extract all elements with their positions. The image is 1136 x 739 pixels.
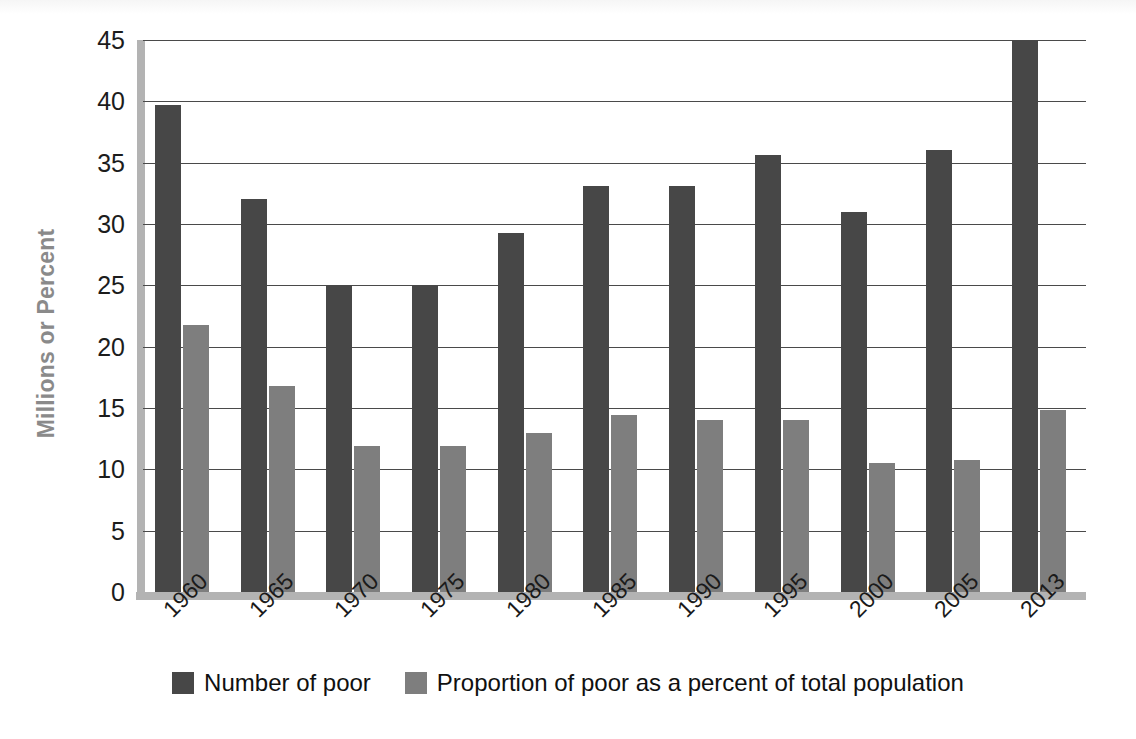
- bar: [583, 186, 609, 592]
- y-tick-label: 35: [97, 148, 125, 177]
- bar: [326, 285, 352, 592]
- bar: [241, 199, 267, 592]
- legend-swatch-icon: [405, 672, 427, 694]
- bar-group: [314, 40, 400, 592]
- y-tick-label: 10: [97, 455, 125, 484]
- y-tick-label: 0: [111, 578, 125, 607]
- y-tick-label: 45: [97, 26, 125, 55]
- legend-item[interactable]: Proportion of poor as a percent of total…: [405, 669, 964, 697]
- bar-group: [915, 40, 1001, 592]
- bar: [841, 212, 867, 592]
- bar-group: [229, 40, 315, 592]
- bar-chart: Millions or Percent 454035302520151050 1…: [0, 0, 1136, 739]
- bar-group: [486, 40, 572, 592]
- bar: [412, 285, 438, 592]
- y-tick-label: 40: [97, 87, 125, 116]
- bar: [926, 150, 952, 592]
- y-tick-label: 20: [97, 332, 125, 361]
- bar-group: [400, 40, 486, 592]
- bar-group: [743, 40, 829, 592]
- y-tick-label: 30: [97, 210, 125, 239]
- y-axis-title: Millions or Percent: [33, 184, 60, 484]
- legend-item[interactable]: Number of poor: [172, 669, 371, 697]
- y-tick-label: 15: [97, 394, 125, 423]
- bar: [783, 420, 809, 592]
- legend-label: Proportion of poor as a percent of total…: [437, 669, 964, 697]
- y-tick-label: 25: [97, 271, 125, 300]
- bar: [697, 420, 723, 592]
- bar: [1040, 410, 1066, 592]
- scan-artifact: [0, 0, 1136, 14]
- bar: [611, 415, 637, 592]
- bar: [526, 433, 552, 592]
- y-tick-label: 5: [111, 516, 125, 545]
- bar: [755, 155, 781, 592]
- bar: [155, 105, 181, 592]
- bar-group: [657, 40, 743, 592]
- bar: [498, 233, 524, 592]
- legend-swatch-icon: [172, 672, 194, 694]
- bar: [1012, 40, 1038, 592]
- bar-group: [572, 40, 658, 592]
- plot-area: 454035302520151050: [143, 40, 1086, 592]
- bar-group: [1000, 40, 1086, 592]
- bar: [669, 186, 695, 592]
- legend-label: Number of poor: [204, 669, 371, 697]
- bar-group: [143, 40, 229, 592]
- bar: [269, 386, 295, 592]
- chart-legend: Number of poorProportion of poor as a pe…: [0, 669, 1136, 697]
- bar-group: [829, 40, 915, 592]
- bar: [183, 325, 209, 592]
